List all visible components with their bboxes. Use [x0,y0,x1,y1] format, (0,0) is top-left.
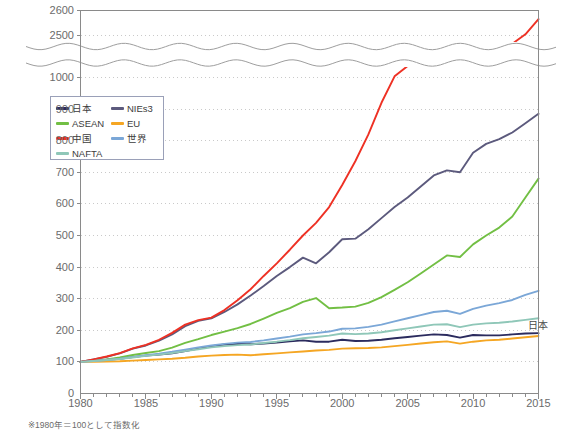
x-tick-label-1985: 1985 [124,398,168,409]
axis-break-mask [26,42,556,67]
y-tick-label-700: 700 [12,167,74,178]
legend-item-label: 中国 [72,134,92,144]
line-chart-canvas [0,0,562,436]
y-tick-label-100: 100 [12,356,74,367]
y-tick-label-2600: 2600 [12,5,74,16]
y-tick-label-900: 900 [12,104,74,115]
x-tick-label-2000: 2000 [320,398,364,409]
legend-item-label: 日本 [72,104,92,114]
y-tick-label-400: 400 [12,262,74,273]
legend-color-swatch [56,122,69,125]
y-tick-label-2500: 2500 [12,30,74,41]
legend-color-swatch [111,122,124,125]
legend-item-label: ASEAN [72,119,104,129]
legend-item-EU: EU [111,119,166,129]
series-annotation-日本: 日本 [528,321,548,331]
legend-item-ASEAN: ASEAN [56,119,111,129]
y-tick-label-800: 800 [12,135,74,146]
x-tick-label-1990: 1990 [189,398,233,409]
chart-root: 日本NIEs3ASEANEU中国世界NAFTA ※1980年＝100として指数化… [0,0,562,436]
x-tick-label-2010: 2010 [451,398,495,409]
y-tick-label-500: 500 [12,230,74,241]
x-tick-label-1995: 1995 [255,398,299,409]
legend-item-label: NIEs3 [127,104,153,114]
y-tick-label-1000: 1000 [12,72,74,83]
y-tick-label-600: 600 [12,198,74,209]
legend-color-swatch [111,137,124,140]
legend-color-swatch [111,107,124,110]
legend-item-label: EU [127,119,140,129]
legend-item-label: NAFTA [72,149,102,159]
x-tick-label-1980: 1980 [59,398,103,409]
legend-item-世界: 世界 [111,134,166,144]
legend-item-NAFTA: NAFTA [56,149,111,159]
legend-color-swatch [56,152,69,155]
y-tick-label-200: 200 [12,325,74,336]
legend-item-NIEs3: NIEs3 [111,104,166,114]
axis-break [26,42,556,67]
x-tick-label-2005: 2005 [386,398,430,409]
legend-item-label: 世界 [127,134,147,144]
y-tick-label-300: 300 [12,293,74,304]
chart-footnote: ※1980年＝100として指数化 [28,421,140,430]
x-tick-label-2015: 2015 [517,398,561,409]
